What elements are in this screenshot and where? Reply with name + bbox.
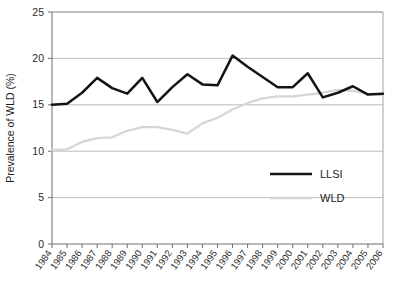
y-tick-label-15: 15 <box>32 98 44 110</box>
y-tick-label-5: 5 <box>38 191 44 203</box>
series-line-llsi <box>52 56 383 105</box>
y-axis-title: Prevalence of WLD (%) <box>4 73 16 183</box>
x-axis-tick-labels: 1984198519861987198819891990199119921993… <box>33 248 385 272</box>
y-tick-label-0: 0 <box>38 238 44 250</box>
y-tick-label-25: 25 <box>32 6 44 18</box>
x-tick-label-2006: 2006 <box>364 248 385 272</box>
y-tick-label-10: 10 <box>32 145 44 157</box>
data-series-group <box>52 56 383 151</box>
line-chart-plot: 0510152025 19841985198619871988198919901… <box>0 0 394 290</box>
legend-label-llsi: LLSI <box>320 168 343 180</box>
chart-legend: LLSI WLD <box>270 168 345 204</box>
y-tick-label-20: 20 <box>32 52 44 64</box>
series-line-wld <box>52 90 383 150</box>
legend-label-wld: WLD <box>320 192 345 204</box>
y-axis-ticks: 0510152025 <box>32 6 52 250</box>
chart-figure: 0510152025 19841985198619871988198919901… <box>0 0 394 290</box>
x-axis-ticks <box>52 244 383 248</box>
plot-frame <box>52 12 383 244</box>
